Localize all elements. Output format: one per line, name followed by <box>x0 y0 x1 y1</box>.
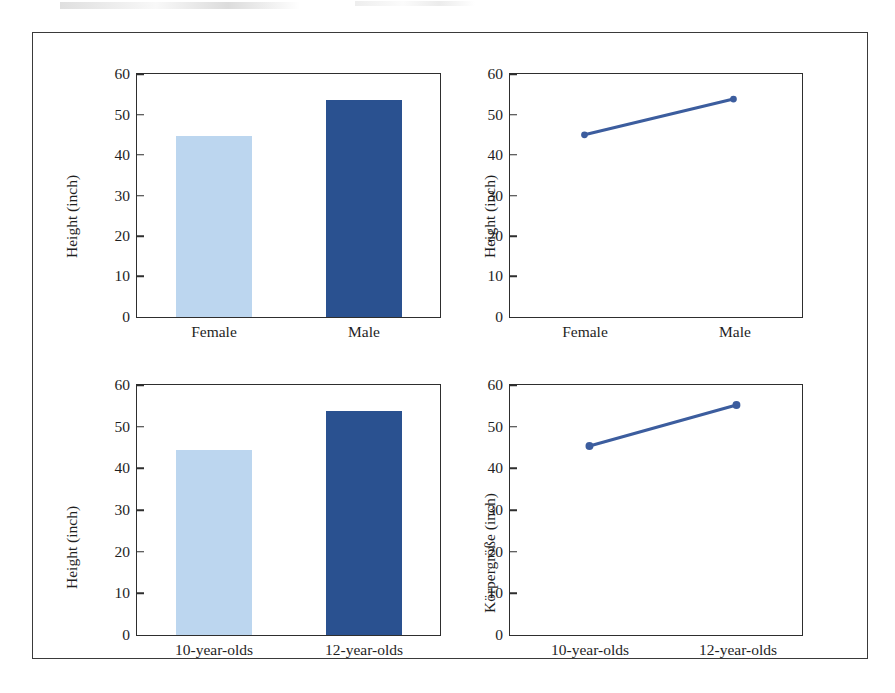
ytick-label: 10 <box>115 269 138 285</box>
ytick-label: 60 <box>488 66 511 82</box>
ytick-label: 10 <box>488 269 511 285</box>
xtick-label: Male <box>348 323 380 341</box>
panel-bottom-left-ylabel: Height (inch) <box>63 506 81 589</box>
ytick-label: 50 <box>115 107 138 123</box>
ytick-label: 30 <box>488 188 511 204</box>
panel-bottom-right-axes: 60 50 40 30 20 10 0 10-year-olds <box>509 384 803 636</box>
line-series-bottom-right <box>510 385 802 635</box>
ytick-label: 40 <box>115 147 138 163</box>
panel-top-left: Height (inch) 60 50 40 30 20 10 0 Female… <box>33 33 463 353</box>
ytick-label: 60 <box>115 377 138 393</box>
bar-male <box>326 100 402 317</box>
figure-frame: Height (inch) 60 50 40 30 20 10 0 Female… <box>32 32 868 659</box>
ytick-label: 30 <box>115 502 138 518</box>
panel-top-left-axes: 60 50 40 30 20 10 0 Female Male <box>136 73 441 318</box>
ytick-label: 60 <box>488 377 511 393</box>
bar-12-year-olds <box>326 411 402 635</box>
ytick-label: 50 <box>488 107 511 123</box>
panel-bottom-left: Height (inch) 60 50 40 30 20 10 0 10-yea… <box>33 353 463 660</box>
ytick-label: 40 <box>115 461 138 477</box>
panel-bottom-right: Körpergröße (inch) 60 50 40 30 20 10 0 <box>463 353 869 660</box>
ytick-label: 20 <box>488 544 511 560</box>
xtick-label: Female <box>562 323 608 341</box>
xtick-label: Female <box>191 323 237 341</box>
xtick-label: 10-year-olds <box>551 641 629 659</box>
ytick-label: 20 <box>115 544 138 560</box>
xtick-label: 12-year-olds <box>325 641 403 659</box>
scan-artifact <box>60 2 300 9</box>
xtick-label: 12-year-olds <box>699 641 777 659</box>
ytick-label: 50 <box>488 419 511 435</box>
bar-female <box>176 136 252 317</box>
xtick-label: Male <box>719 323 751 341</box>
ytick-label: 10 <box>115 586 138 602</box>
ytick-label: 20 <box>115 228 138 244</box>
ytick-label: 0 <box>495 309 510 325</box>
ytick-label: 30 <box>488 502 511 518</box>
line-series-top-right <box>510 74 802 317</box>
ytick-label: 0 <box>122 309 137 325</box>
panel-top-left-ylabel: Height (inch) <box>63 175 81 258</box>
ytick-label: 0 <box>495 627 510 643</box>
xtick-label: 10-year-olds <box>175 641 253 659</box>
ytick-label: 50 <box>115 419 138 435</box>
ytick-label: 30 <box>115 188 138 204</box>
ytick-label: 40 <box>488 147 511 163</box>
panel-top-right-axes: 60 50 40 30 20 10 0 Female Ma <box>509 73 803 318</box>
ytick-label: 60 <box>115 66 138 82</box>
bar-10-year-olds <box>176 450 252 635</box>
ytick-label: 10 <box>488 586 511 602</box>
panel-top-right: Height (inch) 60 50 40 30 20 10 0 <box>463 33 869 353</box>
figure-canvas: Height (inch) 60 50 40 30 20 10 0 Female… <box>0 0 895 693</box>
scan-artifact-secondary <box>355 1 475 6</box>
ytick-label: 40 <box>488 461 511 477</box>
ytick-label: 0 <box>122 627 137 643</box>
panel-bottom-left-axes: 60 50 40 30 20 10 0 10-year-olds 12-year… <box>136 384 441 636</box>
ytick-label: 20 <box>488 228 511 244</box>
